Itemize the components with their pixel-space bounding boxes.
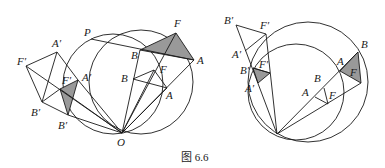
label-F1-prime-r: F′ bbox=[259, 19, 270, 31]
label-A-prime: A′ bbox=[81, 71, 92, 83]
label-B-prime: B′ bbox=[58, 119, 68, 131]
label-B: B bbox=[131, 49, 138, 61]
label-P: P bbox=[83, 26, 91, 38]
left-figure: P F B A B F A F′ A′ B′ F′ A′ B′ O bbox=[16, 17, 204, 148]
label-B1-r: B bbox=[314, 72, 321, 84]
label-A1-prime: A′ bbox=[51, 37, 62, 49]
label-B-r: B bbox=[361, 38, 368, 50]
label-F: F bbox=[173, 17, 181, 29]
label-F1-prime: F′ bbox=[16, 55, 27, 67]
label-A-prime-r: A′ bbox=[244, 82, 255, 94]
geometry-figure: P F B A B F A F′ A′ B′ F′ A′ B′ O B′ F′ … bbox=[0, 0, 385, 168]
label-A1: A bbox=[165, 89, 173, 101]
label-F1: F bbox=[159, 63, 167, 75]
figure-caption: 图 6.6 bbox=[181, 151, 209, 163]
label-A: A bbox=[196, 54, 204, 66]
label-F-r: F bbox=[349, 66, 357, 78]
label-B1: B bbox=[121, 72, 128, 84]
shaded-triangle-BFA bbox=[140, 33, 194, 60]
label-A-r: A bbox=[336, 55, 344, 67]
label-B1-prime-r: B′ bbox=[224, 14, 234, 26]
label-A1-r: A bbox=[301, 86, 309, 98]
right-figure: B′ F′ A′ B′ F′ A′ A B F B A F bbox=[224, 14, 368, 142]
label-F1-r: F bbox=[328, 89, 336, 101]
right-big-circle bbox=[248, 22, 368, 142]
label-O: O bbox=[117, 136, 125, 148]
label-B1-prime: B′ bbox=[31, 106, 41, 118]
label-A1-prime-r: A′ bbox=[231, 48, 242, 60]
label-F-prime: F′ bbox=[61, 74, 72, 86]
label-F-prime-r: F′ bbox=[258, 58, 269, 70]
label-B-prime-r: B′ bbox=[240, 64, 250, 76]
